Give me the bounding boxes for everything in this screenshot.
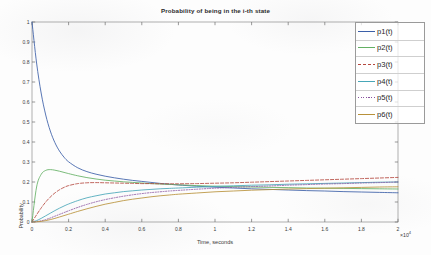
legend-line-sample-2 — [358, 47, 375, 48]
y-tick-label: 0.4 — [23, 139, 30, 145]
series-group — [32, 22, 398, 222]
legend-line-sample-1 — [358, 31, 375, 32]
y-tick-label: 0.2 — [23, 179, 30, 185]
x-tick-label: 1.8 — [358, 226, 365, 232]
legend-line-sample-3 — [358, 64, 375, 65]
x-tick-label: 1.2 — [248, 226, 255, 232]
x-tick-label: 1.4 — [285, 226, 292, 232]
legend-label-2: p2(t) — [377, 43, 393, 52]
y-tick-label: 0.1 — [23, 199, 30, 205]
legend-line-sample-4 — [358, 81, 375, 82]
x-tick-label: 0.6 — [138, 226, 145, 232]
x-tick-label: 0 — [31, 226, 34, 232]
legend-item-4[interactable]: p4(t) — [356, 73, 424, 90]
legend-label-6: p6(t) — [377, 110, 393, 119]
y-tick-label: 0.6 — [23, 99, 30, 105]
axes-group: 00.20.40.60.811.21.41.61.8200.10.20.30.4… — [23, 19, 400, 232]
x-tick-label: 0.4 — [102, 226, 109, 232]
legend-item-3[interactable]: p3(t) — [356, 56, 424, 73]
legend-label-3: p3(t) — [377, 60, 393, 69]
legend-item-6[interactable]: p6(t) — [356, 106, 424, 123]
matlab-figure: Probability of being in the i-th state P… — [0, 0, 431, 255]
y-tick-label: 0 — [27, 219, 30, 225]
legend-item-2[interactable]: p2(t) — [356, 40, 424, 57]
y-tick-label: 0.5 — [23, 119, 30, 125]
y-tick-label: 0.8 — [23, 59, 30, 65]
x-axis-exponent-base: ×10 — [400, 232, 409, 238]
legend-label-4: p4(t) — [377, 77, 393, 86]
x-tick-label: 0.2 — [65, 226, 72, 232]
legend-label-5: p5(t) — [377, 93, 393, 102]
x-tick-label: 1 — [214, 226, 217, 232]
y-tick-label: 0.9 — [23, 39, 30, 45]
x-tick-label: 1.6 — [321, 226, 328, 232]
y-tick-label: 0.3 — [23, 159, 30, 165]
series-line-1 — [32, 22, 398, 193]
legend[interactable]: p1(t)p2(t)p3(t)p4(t)p5(t)p6(t) — [355, 22, 425, 124]
series-line-2 — [32, 170, 398, 222]
legend-item-1[interactable]: p1(t) — [356, 23, 424, 40]
x-tick-label: 0.8 — [175, 226, 182, 232]
legend-line-sample-6 — [358, 114, 375, 115]
x-axis-exponent-power: 4 — [409, 230, 411, 235]
y-tick-label: 0.7 — [23, 79, 30, 85]
legend-label-1: p1(t) — [377, 27, 393, 36]
legend-line-sample-5 — [358, 97, 375, 98]
y-tick-label: 1 — [27, 19, 30, 25]
x-axis-label: Time, seconds — [32, 239, 398, 245]
x-axis-exponent: ×104 — [400, 230, 411, 238]
legend-item-5[interactable]: p5(t) — [356, 90, 424, 107]
series-line-3 — [32, 177, 398, 222]
